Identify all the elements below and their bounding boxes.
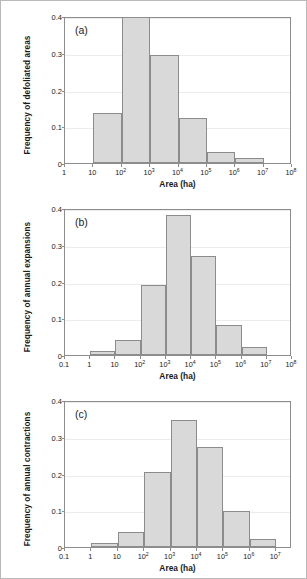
x-tick-label: 102	[115, 168, 126, 177]
x-tick-mark	[170, 548, 171, 551]
histogram-bar	[207, 152, 235, 163]
x-tick-label: 107	[260, 360, 271, 369]
plot-area-b: (b)	[64, 209, 291, 356]
x-axis-title-c: Area (ha)	[64, 563, 291, 573]
x-tick-label: 105	[210, 360, 221, 369]
histogram-bar	[171, 420, 197, 547]
x-tick-mark	[266, 356, 267, 359]
x-tick-label: 107	[270, 552, 281, 561]
y-axis-title-wrap-c: Frequency of annual contractions	[23, 399, 37, 559]
x-tick-label: 106	[235, 360, 246, 369]
x-tick-label: 103	[159, 360, 170, 369]
x-tick-label: 103	[164, 552, 175, 561]
plot-area-a: (a)	[64, 17, 291, 164]
histogram-bar	[141, 285, 166, 355]
panel-label-c: (c)	[75, 408, 87, 420]
x-tick-label: 10	[110, 360, 118, 369]
histogram-bar	[242, 347, 267, 355]
y-tick-label: 0	[40, 160, 62, 169]
x-tick-mark	[206, 164, 207, 167]
x-tick-label: 106	[243, 552, 254, 561]
histogram-bar	[91, 543, 117, 547]
chart-panel-c: Frequency of annual contractions00.10.20…	[1, 389, 307, 577]
x-tick-label: 108	[285, 168, 296, 177]
x-tick-label: 108	[285, 360, 296, 369]
x-tick-mark	[241, 356, 242, 359]
x-tick-label: 1	[62, 168, 66, 177]
x-tick-label: 103	[144, 168, 155, 177]
histogram-bar	[122, 17, 150, 163]
x-tick-label: 10	[88, 168, 96, 177]
y-axis-title-c: Frequency of annual contractions	[23, 399, 37, 559]
histogram-bar	[166, 215, 191, 355]
x-tick-label: 105	[217, 552, 228, 561]
x-tick-label: 106	[229, 168, 240, 177]
bar-series-c	[65, 402, 290, 547]
x-tick-mark	[64, 356, 65, 359]
x-tick-label: 1	[88, 552, 92, 561]
x-tick-mark	[275, 548, 276, 551]
x-tick-mark	[89, 356, 90, 359]
y-tick-label: 0.3	[40, 433, 62, 442]
x-tick-mark	[215, 356, 216, 359]
y-tick-label: 0.1	[40, 507, 62, 516]
y-tick-label: 0.2	[40, 278, 62, 287]
x-tick-mark	[64, 548, 65, 551]
x-tick-mark	[149, 164, 150, 167]
bar-series-a	[65, 18, 290, 163]
x-tick-label: 102	[138, 552, 149, 561]
x-tick-mark	[114, 356, 115, 359]
x-tick-mark	[90, 548, 91, 551]
x-tick-label: 102	[134, 360, 145, 369]
x-tick-mark	[263, 164, 264, 167]
y-axis-title-a: Frequency of defoliated areas	[23, 15, 37, 175]
histogram-bar	[144, 472, 170, 547]
panel-label-a: (a)	[75, 24, 88, 36]
x-tick-mark	[165, 356, 166, 359]
y-axis-ticks-b: 00.10.20.30.4	[38, 209, 62, 356]
x-tick-mark	[64, 164, 65, 167]
panel-label-b: (b)	[75, 216, 88, 228]
x-tick-label: 104	[190, 552, 201, 561]
x-tick-mark	[291, 164, 292, 167]
y-axis-title-wrap-a: Frequency of defoliated areas	[23, 15, 37, 175]
y-tick-label: 0.1	[40, 123, 62, 132]
plot-area-c: (c)	[64, 401, 291, 548]
x-tick-mark	[234, 164, 235, 167]
x-tick-label: 10	[113, 552, 121, 561]
bar-series-b	[65, 210, 290, 355]
y-tick-label: 0.4	[40, 397, 62, 406]
x-tick-label: 105	[200, 168, 211, 177]
x-tick-mark	[143, 548, 144, 551]
x-tick-label: 0.1	[59, 552, 69, 561]
histogram-bar	[191, 256, 216, 355]
histogram-bar	[250, 539, 276, 547]
histogram-bar	[115, 340, 140, 355]
x-tick-mark	[178, 164, 179, 167]
x-tick-label: 0.1	[59, 360, 69, 369]
x-tick-mark	[249, 548, 250, 551]
histogram-bar	[90, 351, 115, 355]
x-tick-label: 1	[87, 360, 91, 369]
x-tick-mark	[291, 356, 292, 359]
x-axis-title-b: Area (ha)	[64, 371, 291, 381]
histogram-bar	[150, 55, 178, 163]
histogram-bar	[197, 447, 223, 547]
histogram-bar	[118, 532, 144, 547]
y-tick-label: 0.4	[40, 13, 62, 22]
y-tick-label: 0.4	[40, 205, 62, 214]
x-tick-mark	[196, 548, 197, 551]
chart-panel-a: Frequency of defoliated areas00.10.20.30…	[1, 5, 307, 197]
chart-panel-b: Frequency of annual expansions00.10.20.3…	[1, 197, 307, 389]
x-tick-mark	[222, 548, 223, 551]
y-tick-label: 0.3	[40, 241, 62, 250]
y-axis-ticks-a: 00.10.20.30.4	[38, 17, 62, 164]
y-tick-label: 0.2	[40, 86, 62, 95]
y-tick-label: 0.1	[40, 315, 62, 324]
figure-container: Frequency of defoliated areas00.10.20.30…	[0, 0, 307, 579]
x-tick-mark	[121, 164, 122, 167]
x-tick-label: 104	[185, 360, 196, 369]
histogram-bar	[216, 325, 241, 355]
histogram-bar	[179, 118, 207, 163]
x-tick-mark	[92, 164, 93, 167]
